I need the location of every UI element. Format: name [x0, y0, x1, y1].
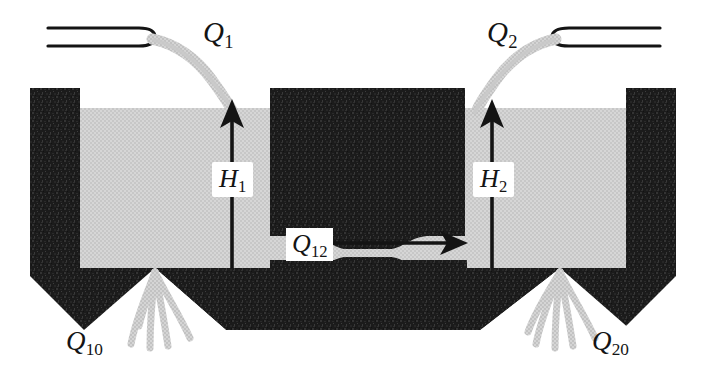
label-outflow-left: Q10	[66, 328, 103, 355]
inlet-pipe-right	[552, 28, 660, 46]
label-inflow-left: Q1	[203, 18, 233, 47]
diagram-svg	[0, 0, 707, 369]
label-head-left: H1	[212, 162, 253, 197]
label-inflow-right: Q2	[487, 18, 517, 47]
wall-left	[30, 88, 80, 268]
inlet-stream-left	[152, 39, 233, 112]
diagram-canvas: Q1 Q2 H1 H2 Q12 Q10 Q20	[0, 0, 707, 369]
label-outflow-right: Q20	[592, 328, 629, 355]
label-cross-flow: Q12	[286, 228, 333, 261]
inlet-pipe-left	[48, 28, 155, 46]
wall-right	[626, 88, 676, 268]
baffle-upper	[270, 88, 465, 249]
label-head-right: H2	[473, 162, 514, 197]
inlet-pipes	[48, 28, 660, 46]
